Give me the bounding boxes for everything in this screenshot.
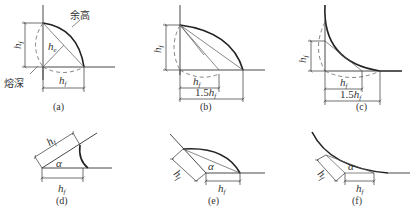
panel-f: hf α hf (f) bbox=[312, 132, 410, 207]
angle-alpha-e: α bbox=[208, 160, 214, 172]
svg-text:hf: hf bbox=[58, 182, 67, 196]
panel-c: hf hf 1.5hf (c) bbox=[296, 5, 402, 113]
svg-text:1.5hf: 1.5hf bbox=[340, 88, 362, 102]
svg-text:hf: hf bbox=[59, 74, 68, 88]
caption-c: (c) bbox=[356, 101, 367, 113]
svg-text:hf: hf bbox=[218, 182, 227, 196]
reinforcement-label: 余高 bbox=[70, 9, 90, 21]
svg-text:1.5hf: 1.5hf bbox=[195, 86, 217, 100]
penetration-label: 熔深 bbox=[4, 77, 24, 89]
svg-text:he: he bbox=[48, 40, 57, 54]
caption-a: (a) bbox=[53, 101, 64, 113]
svg-text:hf: hf bbox=[296, 55, 310, 64]
caption-b: (b) bbox=[200, 101, 212, 113]
angle-alpha-d: α bbox=[56, 157, 62, 169]
svg-text:hf: hf bbox=[11, 41, 25, 50]
svg-text:hf: hf bbox=[151, 45, 165, 54]
caption-e: (e) bbox=[208, 195, 219, 207]
panel-a: 余高 熔深 hf he hf (a) bbox=[4, 5, 115, 113]
panel-d: hf α hf (d) bbox=[35, 133, 112, 207]
fillet-weld-diagram: 余高 熔深 hf he hf (a) hf hf 1.5hf (b) bbox=[0, 0, 414, 214]
panel-b: hf hf 1.5hf (b) bbox=[151, 5, 265, 113]
caption-f: (f) bbox=[352, 195, 362, 207]
svg-text:hf: hf bbox=[44, 133, 59, 149]
svg-text:hf: hf bbox=[314, 167, 330, 183]
angle-alpha-f: α bbox=[348, 160, 354, 172]
svg-text:hf: hf bbox=[356, 182, 365, 196]
caption-d: (d) bbox=[56, 195, 68, 207]
svg-text:hf: hf bbox=[170, 167, 186, 183]
panel-e: hf α hf (e) bbox=[170, 134, 265, 207]
